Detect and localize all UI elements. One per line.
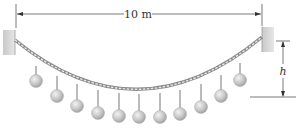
height-label: h [279,65,286,78]
ball [234,74,247,87]
hanging-ball [71,84,84,113]
ball [92,107,105,120]
hanging-ball [174,90,187,121]
span-label: 10 m [124,8,152,21]
ball [174,108,187,121]
hanging-ball [113,93,126,123]
hanging-ball [51,76,64,103]
rope [15,37,262,89]
right-wall-support [262,27,274,52]
arrow-right-icon [255,12,261,16]
hanging-ball [215,75,228,103]
ball [215,90,228,103]
ball [30,75,43,88]
ball [113,110,126,123]
hanging-ball [234,63,247,87]
hanging-ball [30,66,43,88]
hanging-ball [154,93,167,124]
ball [195,101,208,114]
span-dimension: 10 m [16,4,262,28]
ball [51,90,64,103]
catenary-diagram: 10 m h [0,0,300,130]
ball [133,111,146,124]
hanging-ball [133,94,146,124]
arrow-up-icon [281,41,285,47]
ball [71,100,84,113]
ball [154,111,167,124]
hanging-ball [92,90,105,120]
hanging-ball [195,84,208,114]
left-wall-support [3,30,15,55]
arrow-left-icon [17,12,23,16]
arrow-down-icon [281,91,285,97]
